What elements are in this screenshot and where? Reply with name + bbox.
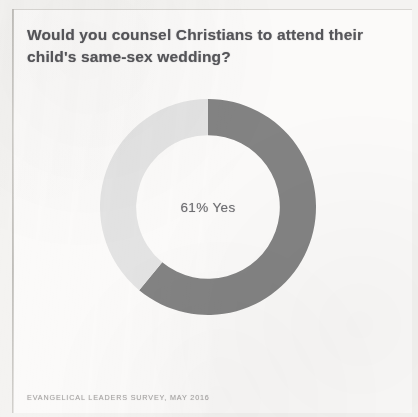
- donut-slice-no: [100, 99, 208, 290]
- page-title: Would you counsel Christians to attend t…: [27, 24, 399, 68]
- donut-slices: [100, 99, 316, 315]
- source-caption: EVANGELICAL LEADERS SURVEY, MAY 2016: [27, 393, 210, 402]
- infographic-card: Would you counsel Christians to attend t…: [12, 9, 412, 413]
- donut-chart: 61% Yes: [100, 99, 316, 315]
- donut-chart-svg: [100, 99, 316, 315]
- scanned-page: Would you counsel Christians to attend t…: [0, 0, 418, 417]
